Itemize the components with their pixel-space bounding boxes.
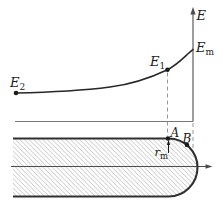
- e2-subscript: 2: [20, 82, 26, 92]
- rm-subscript: m: [160, 151, 168, 161]
- e2-base: E: [9, 75, 20, 90]
- point-b-label: B: [182, 132, 192, 146]
- point-e2-dot: [14, 91, 19, 96]
- e-max-subscript: m: [206, 47, 215, 57]
- point-e1-dot: [165, 67, 170, 72]
- e-max-base: E: [195, 40, 206, 55]
- conductor-hatched-body: [13, 139, 198, 197]
- energy-tip-diagram: E Em E1 E2 A B rm: [0, 0, 223, 207]
- e1-base: E: [149, 54, 160, 69]
- figure-canvas: E Em E1 E2 A B rm: [0, 0, 223, 207]
- point-a-label: A: [170, 126, 180, 140]
- e-axis-label: E: [196, 8, 207, 23]
- e1-subscript: 1: [160, 61, 166, 71]
